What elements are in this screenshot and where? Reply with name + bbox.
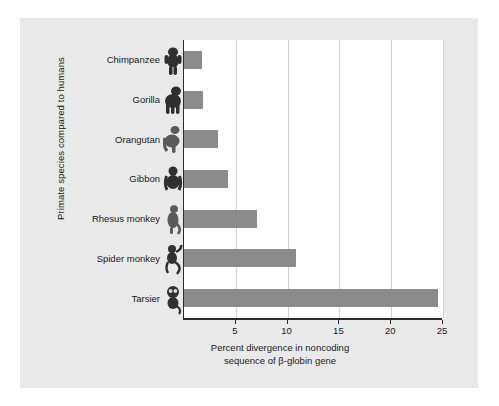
spider-monkey-icon: [163, 241, 183, 275]
category-label: Chimpanzee: [50, 54, 160, 65]
category-label: Spider monkey: [50, 253, 160, 264]
x-tick-label-15: 15: [323, 325, 353, 336]
category-rows: ChimpanzeeGorillaOrangutanGibbonRhesus m…: [20, 40, 478, 318]
x-tick-label-10: 10: [272, 325, 302, 336]
chart-figure: Primate species compared to humans Chimp…: [20, 18, 478, 388]
x-tick-label-5: 5: [220, 325, 250, 336]
category-label: Gibbon: [50, 173, 160, 184]
x-tick-20: [390, 320, 391, 324]
chart-row: Chimpanzee: [20, 40, 478, 80]
x-tick-5: [235, 320, 236, 324]
x-axis-title: Percent divergence in noncoding sequence…: [120, 342, 440, 367]
category-label: Rhesus monkey: [50, 213, 160, 224]
chart-row: Tarsier: [20, 278, 478, 318]
category-label: Tarsier: [50, 293, 160, 304]
x-tick-label-25: 25: [427, 325, 457, 336]
chart-row: Orangutan: [20, 119, 478, 159]
orangutan-icon: [163, 122, 183, 156]
chart-row: Gibbon: [20, 159, 478, 199]
gibbon-icon: [163, 162, 183, 196]
category-label: Orangutan: [50, 134, 160, 145]
chart-row: Rhesus monkey: [20, 199, 478, 239]
x-axis-title-line-1: Percent divergence in noncoding: [120, 342, 440, 355]
rhesus-monkey-icon: [163, 202, 183, 236]
chimpanzee-icon: [163, 43, 183, 77]
x-tick-10: [287, 320, 288, 324]
x-tick-25: [442, 320, 443, 324]
tarsier-icon: [163, 281, 183, 315]
x-tick-15: [338, 320, 339, 324]
x-tick-label-20: 20: [375, 325, 405, 336]
x-axis-line: [183, 318, 442, 320]
chart-row: Gorilla: [20, 80, 478, 120]
gorilla-icon: [163, 83, 183, 117]
chart-row: Spider monkey: [20, 239, 478, 279]
x-axis-title-line-2: sequence of β-globin gene: [120, 355, 440, 368]
category-label: Gorilla: [50, 94, 160, 105]
